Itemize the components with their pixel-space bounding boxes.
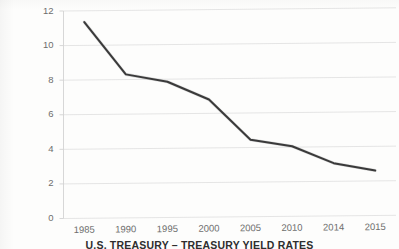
y-tick-label: 2 [48, 177, 53, 188]
x-tick-label: 2000 [198, 222, 219, 233]
y-tick-label: 0 [48, 212, 53, 223]
y-tick-label: 10 [43, 39, 54, 50]
x-tick-label: 1990 [115, 223, 136, 234]
x-tick-label: 1985 [74, 224, 95, 235]
x-tick-label: 2015 [364, 221, 385, 232]
y-tick-label: 4 [48, 143, 53, 154]
x-tick-label: 2010 [281, 222, 302, 233]
line-chart: 024681012 198519901995200020052010201420… [0, 0, 399, 249]
chart-page: 024681012 198519901995200020052010201420… [0, 0, 399, 249]
x-tick-label: 2014 [323, 221, 344, 232]
y-tick-label: 12 [43, 5, 54, 16]
chart-background [0, 0, 399, 249]
y-tick-label: 8 [48, 74, 53, 85]
x-tick-label: 2005 [240, 222, 261, 233]
x-tick-label: 1995 [157, 223, 178, 234]
chart-title: U.S. TREASURY – TREASURY YIELD RATES [0, 239, 399, 249]
y-tick-label: 6 [48, 108, 53, 119]
chart-plot-area: 024681012 198519901995200020052010201420… [0, 0, 399, 249]
